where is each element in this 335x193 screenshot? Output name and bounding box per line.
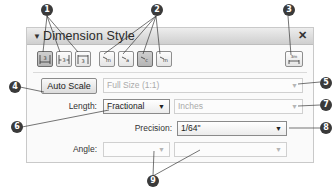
length-format-value: Fractional: [107, 101, 144, 111]
callout-2: 2: [151, 4, 163, 16]
callout-1: 1: [41, 4, 53, 16]
svg-text:a: a: [126, 57, 129, 63]
arrow-style-2-button[interactable]: a: [118, 51, 134, 67]
auto-scale-button[interactable]: Auto Scale: [41, 78, 97, 94]
angle-units-dropdown[interactable]: ▼: [174, 142, 287, 157]
svg-text:3: 3: [62, 57, 65, 63]
callout-4: 4: [9, 81, 21, 93]
toolbar-divider: [33, 72, 307, 73]
callout-6: 6: [11, 121, 23, 133]
dimension-measure-icon: 3m: [288, 53, 300, 65]
leader-arrow-icon: c: [139, 53, 151, 65]
close-icon[interactable]: ✕: [298, 29, 307, 42]
panel-title: Dimension Style: [43, 29, 135, 43]
chevron-down-icon: ▼: [158, 100, 165, 113]
svg-text:m: m: [163, 57, 168, 63]
svg-text:3m: 3m: [291, 54, 298, 59]
precision-value: 1/64": [181, 123, 201, 133]
dimension-settings-button[interactable]: 3m: [285, 51, 303, 67]
svg-text:c: c: [145, 57, 148, 63]
angle-label: Angle:: [57, 144, 97, 154]
length-format-dropdown[interactable]: Fractional ▼: [103, 99, 170, 114]
arrow-style-3-button[interactable]: c: [137, 51, 153, 67]
chevron-down-icon: ▼: [291, 79, 298, 92]
angle-format-dropdown[interactable]: ▼: [103, 142, 170, 157]
svg-text:3: 3: [43, 55, 46, 61]
dimension-text-above-icon: 3: [77, 53, 89, 65]
dimension-text-inline-icon: 3: [39, 53, 51, 65]
callout-8: 8: [320, 122, 332, 134]
leader-arrow-icon: a: [120, 53, 132, 65]
svg-text:m: m: [106, 57, 111, 63]
leader-arrow-icon: m: [101, 53, 113, 65]
precision-dropdown[interactable]: 1/64" ▼: [177, 121, 287, 136]
length-label: Length:: [57, 101, 97, 111]
dimension-style-panel: ▼ Dimension Style ✕ 3 3 3: [26, 27, 314, 163]
precision-label: Precision:: [127, 123, 172, 133]
text-centered-button[interactable]: 3: [56, 51, 72, 67]
callout-3: 3: [283, 4, 295, 16]
collapse-arrow-icon[interactable]: ▼: [33, 32, 41, 41]
svg-text:3: 3: [81, 58, 84, 64]
arrow-style-4-button[interactable]: m: [156, 51, 172, 67]
chevron-down-icon: ▼: [275, 122, 282, 135]
length-units-value: Inches: [178, 101, 203, 111]
leader-arrow-icon: m: [158, 53, 170, 65]
text-above-button[interactable]: 3: [75, 51, 91, 67]
scale-dropdown[interactable]: Full Size (1:1) ▼: [103, 78, 303, 93]
scale-value: Full Size (1:1): [107, 80, 159, 90]
length-units-dropdown[interactable]: Inches ▼: [174, 99, 303, 114]
callout-9: 9: [147, 175, 159, 187]
arrow-style-1-button[interactable]: m: [99, 51, 115, 67]
callout-7: 7: [320, 99, 332, 111]
dimension-text-centered-icon: 3: [58, 53, 70, 65]
callout-5: 5: [320, 77, 332, 89]
chevron-down-icon: ▼: [275, 143, 282, 156]
text-inline-button[interactable]: 3: [37, 51, 53, 67]
panel-titlebar[interactable]: ▼ Dimension Style ✕: [27, 28, 313, 45]
chevron-down-icon: ▼: [291, 100, 298, 113]
chevron-down-icon: ▼: [158, 143, 165, 156]
